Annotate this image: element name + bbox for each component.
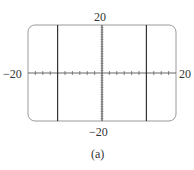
axes	[28, 25, 176, 121]
figure-caption: (a)	[91, 148, 104, 160]
graph-window	[0, 0, 194, 170]
x-min-label: −20	[3, 68, 22, 80]
y-min-label: −20	[89, 126, 108, 138]
x-max-label: 20	[179, 68, 191, 80]
y-max-label: 20	[94, 11, 106, 23]
